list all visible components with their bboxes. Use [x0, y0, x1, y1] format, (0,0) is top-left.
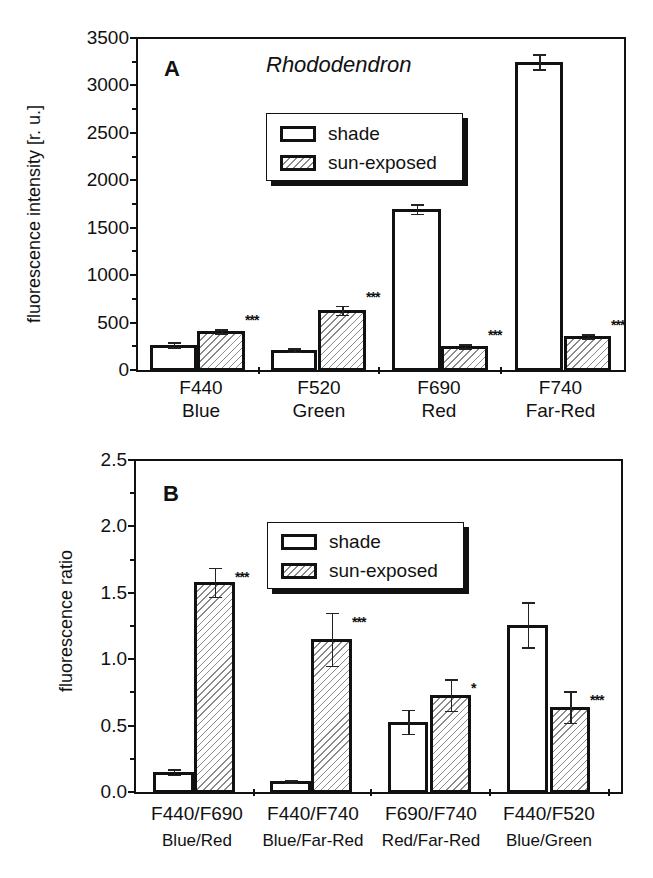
y-tick-label: 1.5: [57, 583, 127, 602]
legend-item-sun-exposed: sun-exposed: [281, 560, 438, 582]
error-bar: [528, 602, 530, 647]
x-tick: [253, 789, 255, 796]
x-tick: [258, 367, 260, 374]
x-category-label: F740Far-Red: [503, 377, 618, 423]
error-bar-cap: [336, 315, 349, 317]
error-bar: [332, 613, 334, 666]
error-bar-cap: [215, 333, 228, 335]
x-tick: [489, 789, 491, 796]
y-tick-label: 0: [59, 360, 129, 379]
x-category-label: F440/F740Blue/Far-Red: [253, 799, 373, 855]
y-tick-label: 0.5: [57, 716, 127, 735]
error-bar-cap: [522, 647, 535, 649]
y-tick-label: 2000: [59, 170, 129, 189]
legend-label: shade: [329, 531, 381, 553]
bar-sun-exposed: [441, 346, 488, 371]
legend-item-shade: shade: [280, 123, 380, 145]
legend-label: shade: [328, 123, 380, 145]
y-tick-label: 0.0: [57, 782, 127, 801]
y-tick-label: 3500: [59, 28, 129, 47]
x-category-label: F520Green: [264, 377, 374, 423]
legend-swatch-open: [281, 534, 317, 550]
y-axis-title: fluorescence intensity [r. u.]: [24, 105, 45, 323]
error-bar-cap: [459, 344, 472, 346]
error-bar-cap: [564, 691, 577, 693]
significance-marker: ***: [235, 570, 248, 584]
bar-sun-exposed: [197, 331, 245, 371]
y-tick-label: 2.5: [57, 450, 127, 469]
error-bar-cap: [326, 666, 339, 668]
error-bar-cap: [582, 338, 595, 340]
error-bar-cap: [459, 348, 472, 350]
error-bar-cap: [445, 711, 458, 713]
error-bar-cap: [402, 710, 415, 712]
error-bar-cap: [533, 54, 546, 56]
legend-swatch-open: [280, 126, 316, 142]
bar-shade: [150, 345, 197, 371]
error-bar-cap: [168, 347, 181, 349]
bar-shade: [392, 209, 441, 371]
error-bar: [408, 710, 410, 734]
bar-sun-exposed: [318, 310, 366, 371]
chart-title: Rhododendron: [266, 52, 412, 78]
error-bar-cap: [445, 679, 458, 681]
x-tick: [500, 367, 502, 374]
legend-item-sun-exposed: sun-exposed: [280, 152, 437, 174]
legend-item-shade: shade: [281, 531, 381, 553]
error-bar-cap: [285, 783, 298, 785]
legend: shade sun-exposed: [267, 522, 464, 589]
legend-label: sun-exposed: [329, 560, 438, 582]
x-category-label: F440Blue: [146, 377, 256, 423]
bar-sun-exposed: [564, 336, 611, 371]
x-category-label: F440/F690Blue/Red: [137, 799, 257, 855]
y-tick-label: 2500: [59, 123, 129, 142]
error-bar-cap: [215, 329, 228, 331]
error-bar: [570, 691, 572, 723]
x-tick: [378, 367, 380, 374]
significance-marker: ***: [590, 693, 603, 707]
error-bar-cap: [285, 780, 298, 782]
x-tick: [370, 789, 372, 796]
legend: shade sun-exposed: [266, 113, 463, 181]
significance-marker: ***: [366, 290, 379, 304]
error-bar-cap: [564, 723, 577, 725]
legend-label: sun-exposed: [328, 152, 437, 174]
y-tick-label: 1500: [59, 218, 129, 237]
y-tick-label: 1.0: [57, 649, 127, 668]
error-bar-cap: [533, 69, 546, 71]
error-bar-cap: [582, 334, 595, 336]
error-bar-cap: [168, 769, 181, 771]
bar-shade: [515, 62, 563, 371]
significance-marker: ***: [611, 318, 624, 332]
error-bar-cap: [288, 348, 301, 350]
error-bar-cap: [402, 734, 415, 736]
error-bar-cap: [326, 613, 339, 615]
x-category-label: F690/F740Red/Far-Red: [371, 799, 491, 855]
error-bar-cap: [168, 342, 181, 344]
error-bar-cap: [411, 204, 424, 206]
legend-swatch-hatched: [280, 155, 316, 171]
y-tick-label: 3000: [59, 75, 129, 94]
panel-letter: B: [163, 481, 179, 507]
y-tick-label: 500: [59, 313, 129, 332]
x-category-label: F690Red: [384, 377, 494, 423]
error-bar: [539, 54, 541, 69]
panel-letter: A: [164, 56, 180, 82]
significance-marker: ***: [352, 615, 365, 629]
error-bar-cap: [209, 597, 222, 599]
x-tick: [608, 789, 610, 796]
significance-marker: *: [471, 681, 475, 695]
significance-marker: ***: [245, 313, 258, 327]
error-bar-cap: [522, 602, 535, 604]
bar-sun-exposed: [194, 582, 235, 793]
y-tick-label: 2.0: [57, 516, 127, 535]
error-bar: [451, 679, 453, 711]
error-bar-cap: [336, 306, 349, 308]
error-bar: [215, 568, 217, 597]
y-axis-title: fluorescence ratio: [56, 550, 77, 692]
error-bar-cap: [168, 775, 181, 777]
error-bar-cap: [288, 352, 301, 354]
x-category-label: F440/F520Blue/Green: [489, 799, 609, 855]
y-tick-label: 1000: [59, 265, 129, 284]
bar-shade: [507, 625, 548, 793]
